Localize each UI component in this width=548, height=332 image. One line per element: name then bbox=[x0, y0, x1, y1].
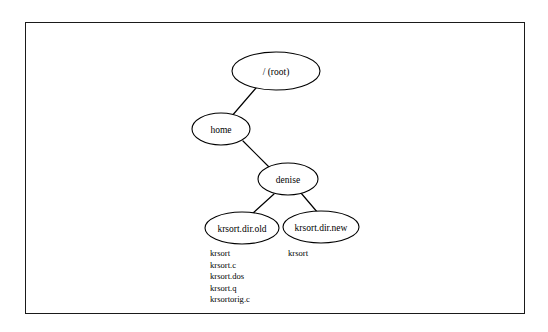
tree-node-krsort-dir-new[interactable]: krsort.dir.new bbox=[283, 211, 359, 243]
tree-node-home[interactable]: home bbox=[192, 113, 250, 145]
file-list-item: krsort.q bbox=[210, 283, 237, 293]
tree-node-root[interactable]: / (root) bbox=[232, 52, 320, 90]
tree-node-denise[interactable]: denise bbox=[258, 163, 318, 195]
file-list-item: krsort bbox=[288, 248, 309, 258]
file-list-krsort-dir-old-files: krsortkrsort.ckrsort.doskrsort.qkrsortor… bbox=[210, 248, 250, 304]
node-label-krsort-dir-old: krsort.dir.old bbox=[217, 224, 266, 234]
directory-tree-diagram: / (root)homedenisekrsort.dir.oldkrsort.d… bbox=[0, 0, 548, 332]
tree-edge-denise-krsort-new bbox=[301, 193, 318, 213]
tree-edge-denise-krsort-old bbox=[252, 194, 274, 214]
tree-edge-root-home bbox=[231, 88, 256, 117]
node-label-home: home bbox=[210, 125, 231, 135]
file-list-item: krsort.c bbox=[210, 260, 236, 270]
node-label-krsort-dir-new: krsort.dir.new bbox=[295, 223, 348, 233]
tree-edges bbox=[231, 88, 318, 214]
file-list-krsort-dir-new-files: krsort bbox=[288, 248, 309, 258]
file-lists: krsortkrsort.ckrsort.doskrsort.qkrsortor… bbox=[210, 248, 309, 304]
file-list-item: krsort bbox=[210, 248, 231, 258]
tree-nodes: / (root)homedenisekrsort.dir.oldkrsort.d… bbox=[192, 52, 359, 244]
node-label-root: / (root) bbox=[263, 67, 290, 78]
file-list-item: krsortorig.c bbox=[210, 294, 250, 304]
tree-node-krsort-dir-old[interactable]: krsort.dir.old bbox=[205, 212, 279, 244]
tree-edge-home-denise bbox=[243, 141, 269, 167]
node-label-denise: denise bbox=[276, 175, 300, 185]
file-list-item: krsort.dos bbox=[210, 271, 245, 281]
